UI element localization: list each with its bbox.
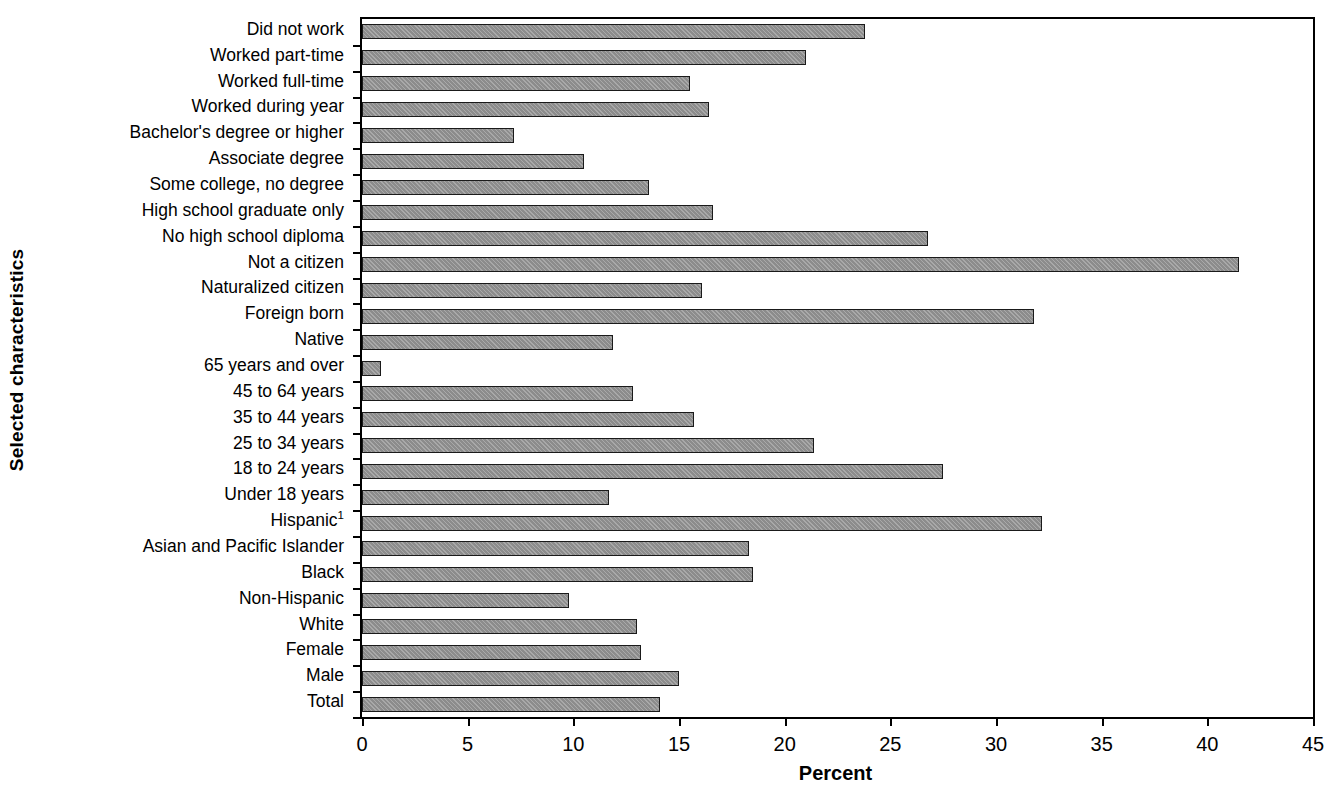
category-label: Total [307,693,344,711]
y-axis-tick [353,303,362,305]
category-label: Worked during year [192,98,344,116]
category-label: Some college, no degree [149,176,344,194]
x-axis-tick [1207,717,1209,726]
bar [362,697,660,712]
y-axis-tick [353,639,362,641]
x-axis-tick [996,717,998,726]
x-axis-tick-label: 35 [1091,733,1113,756]
y-axis-tick [353,665,362,667]
y-axis-tick [353,407,362,409]
bar [362,283,702,298]
category-label: Did not work [247,21,344,39]
x-axis-tick [362,717,364,726]
y-axis-tick [353,381,362,383]
category-label: 35 to 44 years [233,409,344,427]
y-axis-tick [353,614,362,616]
x-axis-tick [890,717,892,726]
bar [362,76,690,91]
bar [362,386,633,401]
category-label: Worked part-time [210,47,344,65]
category-label: Naturalized citizen [201,279,344,297]
x-axis-tick [468,717,470,726]
bar [362,593,569,608]
y-axis-tick [353,148,362,150]
bar [362,128,514,143]
bar [362,516,1042,531]
bar [362,619,637,634]
category-label: High school graduate only [142,202,344,220]
category-label: Not a citizen [248,254,344,272]
category-label: Foreign born [245,305,344,323]
category-label: Asian and Pacific Islander [143,538,344,556]
y-axis-tick [353,252,362,254]
category-label: 65 years and over [204,357,344,375]
x-axis-tick [1102,717,1104,726]
category-label: Native [294,331,344,349]
category-label: Non-Hispanic [239,590,344,608]
bar [362,257,1239,272]
y-axis-tick [353,536,362,538]
y-axis-tick [353,458,362,460]
x-axis-tick-label: 30 [985,733,1007,756]
bar [362,361,381,376]
x-axis-tick [679,717,681,726]
x-axis-tick-label: 25 [879,733,901,756]
bar [362,464,943,479]
category-axis-labels: Did not workWorked part-timeWorked full-… [36,17,352,715]
y-axis-tick [353,691,362,693]
x-axis-tick-label: 15 [668,733,690,756]
bar [362,231,928,246]
y-axis-tick [353,226,362,228]
category-label: Associate degree [209,150,344,168]
plot-area: 051015202530354045 [360,17,1315,719]
bar [362,102,709,117]
bar [362,412,694,427]
y-axis-tick [353,588,362,590]
bar [362,541,749,556]
x-axis-tick-label: 45 [1302,733,1324,756]
category-label: 18 to 24 years [233,460,344,478]
x-axis-title: Percent [360,762,1311,785]
y-axis-tick [353,45,362,47]
footnote-marker: 1 [338,509,344,521]
category-label: Under 18 years [224,486,344,504]
y-axis-tick [353,278,362,280]
category-label: 25 to 34 years [233,435,344,453]
bar [362,180,649,195]
bar [362,24,865,39]
bar [362,50,806,65]
category-label: Bachelor's degree or higher [130,124,344,142]
x-axis-tick-label: 5 [462,733,473,756]
y-axis-tick [353,174,362,176]
y-axis-tick [353,71,362,73]
y-axis-tick [353,122,362,124]
category-label: Female [286,641,344,659]
y-axis-tick [353,562,362,564]
x-axis-tick [1313,717,1315,726]
bar [362,205,713,220]
bars-container [362,19,1313,717]
y-axis-tick [353,329,362,331]
y-axis-title-text: Selected characteristics [6,249,28,471]
y-axis-tick [353,717,362,719]
x-axis-tick [573,717,575,726]
x-axis-tick [785,717,787,726]
y-axis-title: Selected characteristics [0,0,34,720]
x-axis-tick-label: 0 [356,733,367,756]
y-axis-tick [353,433,362,435]
y-axis-tick [353,510,362,512]
y-axis-tick [353,484,362,486]
category-label: White [299,616,344,634]
bar [362,490,609,505]
category-label: No high school diploma [162,228,344,246]
x-axis-tick-label: 10 [562,733,584,756]
category-label: 45 to 64 years [233,383,344,401]
bar [362,567,753,582]
category-label: Black [301,564,344,582]
bar [362,671,679,686]
x-axis-tick-label: 40 [1196,733,1218,756]
bar [362,438,814,453]
y-axis-tick [353,200,362,202]
bar [362,154,584,169]
